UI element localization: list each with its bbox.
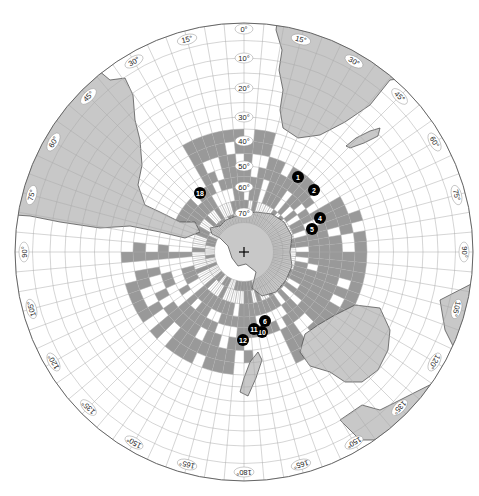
svg-text:4: 4 — [318, 215, 322, 222]
svg-text:50°: 50° — [238, 162, 249, 171]
svg-text:10°: 10° — [238, 54, 249, 63]
svg-text:0°: 0° — [240, 25, 247, 34]
site-marker-2[interactable]: 2 — [308, 184, 320, 196]
site-marker-5[interactable]: 5 — [306, 223, 318, 235]
latitude-label: 10° — [235, 53, 253, 63]
svg-text:6: 6 — [263, 318, 267, 325]
shaded-cell — [133, 252, 146, 262]
shaded-cell — [146, 252, 159, 261]
svg-text:1: 1 — [296, 174, 300, 181]
site-marker-4[interactable]: 4 — [314, 212, 326, 224]
site-marker-1[interactable]: 1 — [292, 171, 304, 183]
longitude-label: 90° — [19, 242, 29, 262]
longitude-label: 90° — [459, 242, 469, 262]
svg-text:18: 18 — [196, 190, 204, 197]
shaded-cell — [133, 242, 146, 252]
latitude-label: 20° — [235, 83, 253, 93]
latitude-label: 50° — [235, 161, 253, 171]
svg-text:5: 5 — [310, 226, 314, 233]
svg-text:40°: 40° — [238, 137, 249, 146]
site-marker-11[interactable]: 11 — [248, 323, 260, 335]
latitude-label: 60° — [235, 182, 253, 192]
shaded-cell — [319, 252, 330, 259]
svg-text:30°: 30° — [238, 113, 249, 122]
shaded-cell — [319, 245, 330, 252]
latitude-label: 0° — [235, 24, 253, 34]
site-marker-18[interactable]: 18 — [194, 187, 206, 199]
south-polar-map: 0°10°20°30°40°50°60°70°15°30°45°60°75°90… — [0, 0, 479, 496]
svg-text:70°: 70° — [238, 209, 249, 218]
shaded-cell — [330, 243, 343, 252]
svg-text:90°: 90° — [20, 246, 29, 257]
svg-text:20°: 20° — [238, 84, 249, 93]
site-marker-12[interactable]: 12 — [237, 334, 249, 346]
latitude-label: 30° — [235, 112, 253, 122]
svg-text:12: 12 — [239, 337, 247, 344]
longitude-label: 180° — [234, 467, 254, 477]
svg-text:60°: 60° — [238, 183, 249, 192]
svg-text:180°: 180° — [236, 468, 252, 477]
shaded-cell — [355, 252, 367, 263]
svg-text:90°: 90° — [460, 246, 469, 257]
svg-text:11: 11 — [250, 326, 258, 333]
latitude-label: 70° — [235, 208, 253, 218]
latitude-label: 40° — [235, 136, 253, 146]
site-marker-6[interactable]: 6 — [259, 315, 271, 327]
shaded-cell — [158, 252, 169, 259]
shaded-cell — [158, 245, 169, 252]
shaded-cell — [121, 252, 133, 263]
shaded-cell — [330, 252, 343, 261]
shaded-cell — [355, 241, 367, 252]
svg-text:2: 2 — [312, 187, 316, 194]
shaded-cell — [342, 252, 355, 262]
